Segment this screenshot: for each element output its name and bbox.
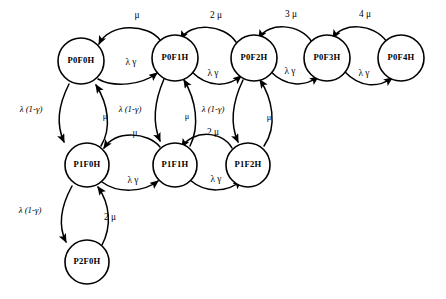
node-P2F0H[interactable]: P2F0H <box>65 240 109 284</box>
edge-label-P0F1H-P1F1H: λ (1-γ) <box>118 104 142 114</box>
node-P0F3H[interactable]: P0F3H <box>304 35 350 81</box>
node-label-P1F2H: P1F2H <box>235 159 262 169</box>
node-label-P0F2H: P0F2H <box>241 52 268 62</box>
edge-label-P0F1H-P0F2H: λ γ <box>207 68 218 78</box>
node-P0F0H[interactable]: P0F0H <box>58 38 104 84</box>
node-P1F1H[interactable]: P1F1H <box>153 143 197 187</box>
node-label-P2F0H: P2F0H <box>74 256 101 266</box>
edge-label-P0F3H-P0F2H: 3 μ <box>285 9 297 19</box>
edge-P1F0H-to-P2F0H <box>61 186 72 242</box>
edge-label-P1F2H-P0F2H: μ <box>267 113 272 122</box>
edge-label-P0F2H-P0F1H: 2 μ <box>210 10 222 20</box>
node-label-P0F0H: P0F0H <box>68 55 95 65</box>
node-label-P1F0H: P1F0H <box>74 159 101 169</box>
node-P1F2H[interactable]: P1F2H <box>226 143 270 187</box>
state-diagram-container: P0F0H P0F1H P0F2H P0F3H P0F4H P1F0H <box>0 0 446 299</box>
edge-label-P0F3H-P0F4H: λ γ <box>358 68 369 78</box>
edge-P0F1H-to-P0F0H <box>99 28 160 44</box>
node-P0F1H[interactable]: P0F1H <box>152 35 198 81</box>
edge-label-P1F0H-P2F0H: λ (1-γ) <box>18 205 42 215</box>
edge-label-P1F1H-P1F0H: μ <box>132 128 137 138</box>
edge-label-P0F1H-P0F0H: μ <box>134 10 139 20</box>
edge-label-P1F0H-P1F1H: λ γ <box>127 175 138 185</box>
node-label-P1F1H: P1F1H <box>162 159 189 169</box>
edge-label-P1F1H-P1F2H: λ γ <box>210 174 221 184</box>
node-label-P0F1H: P0F1H <box>162 52 189 62</box>
edge-label-P1F0H-P0F0H: μ <box>103 112 108 121</box>
edge-label-P0F0H-P0F1H: λ γ <box>125 57 136 67</box>
edge-P0F0H-to-P0F1H <box>98 73 157 84</box>
edge-P0F0H-to-P1F0H <box>59 84 69 142</box>
edge-label-P1F1H-P0F1H: μ <box>185 112 190 121</box>
state-transition-diagram: P0F0H P0F1H P0F2H P0F3H P0F4H P1F0H <box>0 0 446 299</box>
edge-label-P0F0H-P1F0H: λ (1-γ) <box>19 104 43 114</box>
edge-P0F1H-to-P1F1H <box>155 79 164 141</box>
edge-label-P0F4H-P0F3H: 4 μ <box>359 9 371 19</box>
edge-label-P2F0H-P1F0H: 2 μ <box>104 212 116 222</box>
node-label-P0F4H: P0F4H <box>388 52 415 62</box>
node-P0F4H[interactable]: P0F4H <box>378 35 424 81</box>
node-P1F0H[interactable]: P1F0H <box>65 143 109 187</box>
node-label-P0F3H: P0F3H <box>314 52 341 62</box>
edge-label-P0F2H-P1F2H: λ (1-γ) <box>201 104 225 114</box>
node-P0F2H[interactable]: P0F2H <box>231 35 277 81</box>
edge-label-P1F2H-P1F1H: 2 μ <box>207 127 219 137</box>
edge-label-P0F2H-P0F3H: λ γ <box>284 66 295 76</box>
edge-P0F2H-to-P1F2H <box>233 80 243 142</box>
